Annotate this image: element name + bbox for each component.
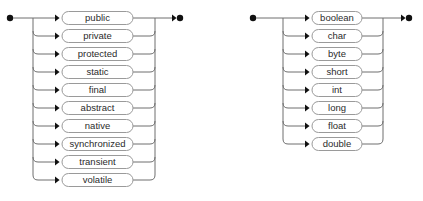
alternative-row-modifier-native: native <box>33 120 155 133</box>
alternative-row-modifier-synchronized: synchronized <box>33 138 155 151</box>
branch-arrow-icon-double <box>305 141 310 148</box>
branch-arrow-icon-private <box>55 33 60 40</box>
token-label-char: char <box>328 30 346 41</box>
branch-in-long <box>283 103 305 108</box>
branch-arrow-icon-final <box>55 87 60 94</box>
token-label-final: final <box>89 84 106 95</box>
token-label-long: long <box>328 102 346 113</box>
alternative-row-modifier-protected: protected <box>33 48 155 61</box>
branch-out-long <box>362 103 383 108</box>
branch-out-protected <box>133 49 155 54</box>
token-label-public: public <box>85 12 110 23</box>
branch-out-int <box>362 85 383 90</box>
alternative-row-primitive-type-double: double <box>283 138 383 151</box>
branch-out-double <box>362 139 383 144</box>
branch-out-abstract <box>133 103 155 108</box>
branch-arrow-icon-boolean <box>305 15 310 22</box>
branch-in-double <box>283 139 305 144</box>
token-label-volatile: volatile <box>83 174 113 185</box>
alternative-row-primitive-type-short: short <box>283 66 383 79</box>
branch-out-private <box>133 31 155 36</box>
token-label-byte: byte <box>328 48 346 59</box>
branch-arrow-icon-public <box>55 15 60 22</box>
branch-out-char <box>362 31 383 36</box>
branch-in-abstract <box>33 103 55 108</box>
exit-arrow-icon-primitive-type <box>401 15 406 22</box>
branch-out-final <box>133 85 155 90</box>
branch-arrow-icon-long <box>305 105 310 112</box>
branch-out-static <box>133 67 155 72</box>
branch-arrow-icon-abstract <box>55 105 60 112</box>
token-label-double: double <box>323 138 352 149</box>
branch-out-native <box>133 121 155 126</box>
alternative-row-primitive-type-long: long <box>283 102 383 115</box>
alternative-row-modifier-static: static <box>33 66 155 79</box>
branch-in-native <box>33 121 55 126</box>
branch-in-static <box>33 67 55 72</box>
branch-out-byte <box>362 49 383 54</box>
branch-arrow-icon-volatile <box>55 177 60 184</box>
alternative-row-modifier-private: private <box>33 30 155 43</box>
token-label-abstract: abstract <box>81 102 115 113</box>
token-label-native: native <box>85 120 110 131</box>
branch-arrow-icon-transient <box>55 159 60 166</box>
branch-out-synchronized <box>133 139 155 144</box>
token-label-static: static <box>86 66 108 77</box>
branch-arrow-icon-synchronized <box>55 141 60 148</box>
branch-out-float <box>362 121 383 126</box>
start-terminal-modifier <box>7 15 13 21</box>
branch-arrow-icon-int <box>305 87 310 94</box>
start-terminal-primitive-type <box>250 15 256 21</box>
branch-arrow-icon-float <box>305 123 310 130</box>
alternative-row-modifier-transient: transient <box>33 156 155 169</box>
alternative-row-modifier-final: final <box>33 84 155 97</box>
branch-arrow-icon-protected <box>55 51 60 58</box>
branch-arrow-icon-static <box>55 69 60 76</box>
railroad-diagram-modifier: publicprivateprotectedstaticfinalabstrac… <box>7 12 183 187</box>
token-label-boolean: boolean <box>320 12 354 23</box>
alternative-row-primitive-type-int: int <box>283 84 383 97</box>
exit-arrow-icon-modifier <box>172 15 177 22</box>
token-label-short: short <box>326 66 347 77</box>
branch-in-volatile <box>33 175 55 180</box>
end-terminal-primitive-type <box>406 15 412 21</box>
railroad-diagram-canvas: publicprivateprotectedstaticfinalabstrac… <box>0 0 423 201</box>
branch-in-int <box>283 85 305 90</box>
token-label-protected: protected <box>78 48 118 59</box>
branch-arrow-icon-char <box>305 33 310 40</box>
branch-in-protected <box>33 49 55 54</box>
token-label-private: private <box>83 30 112 41</box>
railroad-diagram-primitive-type: booleancharbyteshortintlongfloatdouble <box>250 12 412 151</box>
diagram-layer: publicprivateprotectedstaticfinalabstrac… <box>7 12 412 187</box>
branch-out-volatile <box>133 175 155 180</box>
end-terminal-modifier <box>177 15 183 21</box>
branch-in-char <box>283 31 305 36</box>
alternative-row-primitive-type-boolean: boolean <box>283 12 383 25</box>
branch-in-short <box>283 67 305 72</box>
token-label-transient: transient <box>79 156 116 167</box>
alternative-row-primitive-type-float: float <box>283 120 383 133</box>
branch-arrow-icon-native <box>55 123 60 130</box>
branch-out-transient <box>133 157 155 162</box>
alternative-row-modifier-volatile: volatile <box>33 174 155 187</box>
branch-in-transient <box>33 157 55 162</box>
branch-in-float <box>283 121 305 126</box>
alternative-row-modifier-public: public <box>33 12 155 25</box>
branch-in-private <box>33 31 55 36</box>
alternative-row-primitive-type-char: char <box>283 30 383 43</box>
alternative-row-primitive-type-byte: byte <box>283 48 383 61</box>
branch-in-final <box>33 85 55 90</box>
alternative-row-modifier-abstract: abstract <box>33 102 155 115</box>
branch-arrow-icon-short <box>305 69 310 76</box>
branch-arrow-icon-byte <box>305 51 310 58</box>
branch-out-short <box>362 67 383 72</box>
branch-in-byte <box>283 49 305 54</box>
token-label-float: float <box>328 120 346 131</box>
branch-in-synchronized <box>33 139 55 144</box>
token-label-synchronized: synchronized <box>70 138 126 149</box>
token-label-int: int <box>332 84 342 95</box>
